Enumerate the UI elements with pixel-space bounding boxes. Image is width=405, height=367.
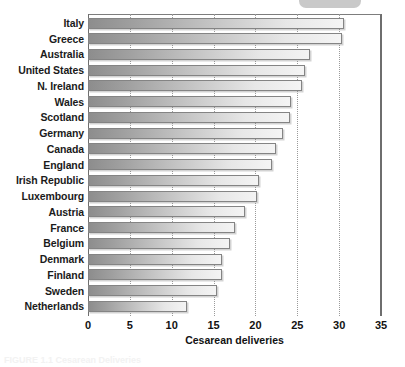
bar-italy bbox=[88, 18, 344, 29]
bar-netherlands bbox=[88, 301, 187, 312]
x-tick-20: 20 bbox=[240, 319, 270, 331]
bar-greece bbox=[88, 33, 342, 44]
bar-scotland bbox=[88, 112, 290, 123]
bar-row bbox=[88, 299, 381, 315]
bar-row bbox=[88, 142, 381, 158]
bar-row bbox=[88, 173, 381, 189]
x-axis-title: Cesarean deliveries bbox=[88, 334, 381, 346]
bar-sweden bbox=[88, 285, 217, 296]
bar-australia bbox=[88, 49, 310, 60]
bar-irish-republic bbox=[88, 175, 259, 186]
bar-row bbox=[88, 252, 381, 268]
bar-canada bbox=[88, 143, 276, 154]
category-label-canada: Canada bbox=[0, 144, 84, 155]
category-label-germany: Germany bbox=[0, 128, 84, 139]
category-label-belgium: Belgium bbox=[0, 238, 84, 249]
category-label-france: France bbox=[0, 223, 84, 234]
bar-row bbox=[88, 47, 381, 63]
bar-germany bbox=[88, 128, 283, 139]
bar-luxembourg bbox=[88, 191, 257, 202]
category-label-netherlands: Netherlands bbox=[0, 301, 84, 312]
bar-austria bbox=[88, 206, 245, 217]
x-axis-tick-labels: 05101520253035 bbox=[0, 319, 405, 335]
bar-row bbox=[88, 79, 381, 95]
category-label-united-states: United States bbox=[0, 65, 84, 76]
category-label-england: England bbox=[0, 160, 84, 171]
gridline-35 bbox=[381, 14, 382, 316]
category-label-n-ireland: N. Ireland bbox=[0, 81, 84, 92]
bar-row bbox=[88, 236, 381, 252]
category-label-italy: Italy bbox=[0, 18, 84, 29]
bar-row bbox=[88, 268, 381, 284]
bar-row bbox=[88, 189, 381, 205]
bar-row bbox=[88, 32, 381, 48]
bar-row bbox=[88, 16, 381, 32]
category-label-scotland: Scotland bbox=[0, 112, 84, 123]
category-axis-labels: ItalyGreeceAustraliaUnited StatesN. Irel… bbox=[0, 16, 84, 315]
category-label-wales: Wales bbox=[0, 97, 84, 108]
category-label-denmark: Denmark bbox=[0, 254, 84, 265]
bar-row bbox=[88, 158, 381, 174]
category-label-irish-republic: Irish Republic bbox=[0, 175, 84, 186]
bars-group bbox=[88, 16, 381, 315]
x-tick-35: 35 bbox=[366, 319, 396, 331]
category-label-greece: Greece bbox=[0, 34, 84, 45]
category-label-sweden: Sweden bbox=[0, 286, 84, 297]
bar-france bbox=[88, 222, 235, 233]
figure-caption: FIGURE 1.1 Cesarean Deliveries bbox=[4, 355, 141, 365]
cesarean-deliveries-bar-chart: ItalyGreeceAustraliaUnited StatesN. Irel… bbox=[0, 0, 405, 367]
bar-belgium bbox=[88, 238, 230, 249]
bar-denmark bbox=[88, 254, 222, 265]
x-tick-5: 5 bbox=[115, 319, 145, 331]
bar-row bbox=[88, 110, 381, 126]
x-tick-10: 10 bbox=[157, 319, 187, 331]
bar-row bbox=[88, 95, 381, 111]
bar-row bbox=[88, 221, 381, 237]
bar-row bbox=[88, 63, 381, 79]
bar-finland bbox=[88, 269, 222, 280]
category-label-australia: Australia bbox=[0, 49, 84, 60]
bar-row bbox=[88, 205, 381, 221]
x-tick-15: 15 bbox=[199, 319, 229, 331]
x-tick-30: 30 bbox=[324, 319, 354, 331]
category-label-finland: Finland bbox=[0, 270, 84, 281]
bar-united-states bbox=[88, 65, 305, 76]
category-label-luxembourg: Luxembourg bbox=[0, 191, 84, 202]
x-tick-0: 0 bbox=[73, 319, 103, 331]
x-tick-25: 25 bbox=[282, 319, 312, 331]
bar-n-ireland bbox=[88, 80, 302, 91]
bar-england bbox=[88, 159, 272, 170]
bar-row bbox=[88, 126, 381, 142]
bar-wales bbox=[88, 96, 291, 107]
category-label-austria: Austria bbox=[0, 207, 84, 218]
bar-row bbox=[88, 284, 381, 300]
